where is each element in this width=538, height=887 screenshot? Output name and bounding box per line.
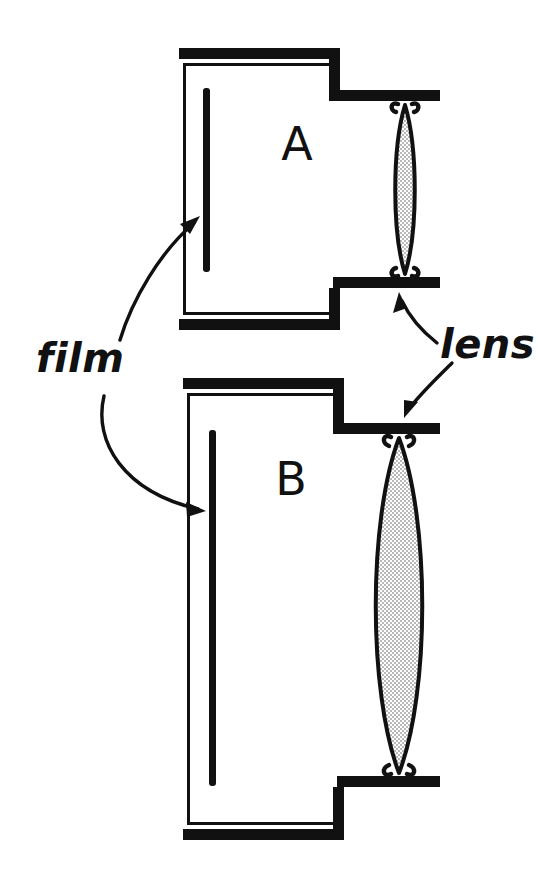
camera-b-lens-board-top <box>333 423 440 434</box>
camera-diagram: A B <box>0 0 538 887</box>
canvas-background <box>0 0 538 887</box>
camera-a-film <box>203 88 210 272</box>
film-label: film <box>36 335 125 381</box>
camera-a-lens-board-bottom <box>333 277 440 288</box>
camera-b-letter: B <box>275 452 307 506</box>
diagram-canvas: A B <box>0 0 538 887</box>
camera-b-film <box>209 430 216 786</box>
lens-label: lens <box>440 321 535 367</box>
camera-a-letter: A <box>281 117 313 171</box>
camera-a-lens-board-top <box>329 90 440 101</box>
camera-b-lens-board-bottom <box>337 776 440 787</box>
camera-a-lens <box>395 105 415 274</box>
